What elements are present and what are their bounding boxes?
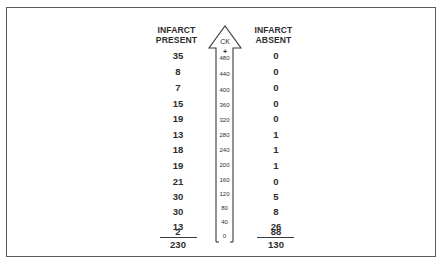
scale-tick: 320 [216, 117, 233, 124]
scale-tick: 40 [216, 219, 233, 226]
scale-tick: 360 [216, 102, 233, 109]
scale-tick: 440 [216, 71, 233, 78]
scale-tick: 0 [216, 233, 233, 240]
scale-tick: 160 [216, 177, 233, 184]
value-cell: 2 [158, 226, 198, 237]
scale-tick: 400 [216, 87, 233, 94]
scale-tick: 240 [216, 147, 233, 154]
scale-tick: 280 [216, 132, 233, 139]
ck-axis-label: CK [215, 38, 235, 46]
scale-tick: 120 [216, 191, 233, 198]
scale-tick: 80 [216, 205, 233, 212]
scale-tick: 480 [216, 55, 233, 62]
scale-tick: 200 [216, 162, 233, 169]
value-cell: 88 [256, 226, 296, 237]
